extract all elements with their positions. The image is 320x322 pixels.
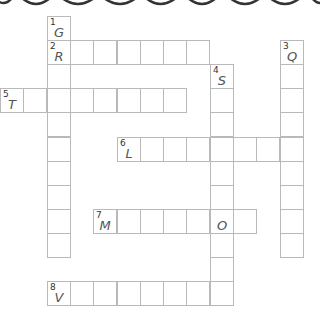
crossword-cell[interactable] bbox=[93, 281, 117, 306]
crossword-cell[interactable] bbox=[210, 185, 234, 210]
crossword-cell[interactable] bbox=[280, 233, 304, 258]
crossword-cell[interactable] bbox=[256, 137, 280, 162]
crossword-cell[interactable] bbox=[210, 137, 234, 162]
crossword-cell[interactable] bbox=[93, 40, 117, 65]
crossword-cell[interactable] bbox=[233, 137, 257, 162]
cell-letter: M bbox=[94, 218, 116, 233]
cell-letter: G bbox=[48, 25, 70, 40]
crossword-cell[interactable] bbox=[117, 40, 141, 65]
crossword-cell[interactable] bbox=[47, 137, 71, 162]
cell-letter: V bbox=[48, 290, 70, 305]
crossword-cell[interactable] bbox=[140, 209, 164, 234]
crossword-cell[interactable] bbox=[47, 209, 71, 234]
crossword-cell[interactable] bbox=[280, 209, 304, 234]
crossword-cell[interactable] bbox=[186, 40, 210, 65]
crossword-cell[interactable] bbox=[163, 88, 187, 113]
crossword-cell[interactable] bbox=[47, 185, 71, 210]
cell-letter: L bbox=[118, 146, 140, 161]
crossword-cell[interactable] bbox=[47, 64, 71, 89]
cell-letter: O bbox=[211, 218, 233, 233]
crossword-cell[interactable] bbox=[280, 112, 304, 137]
crossword-cell[interactable] bbox=[117, 209, 141, 234]
crossword-cell[interactable] bbox=[70, 40, 94, 65]
crossword-grid: 1G2R3Q4SO5T6L7M8V bbox=[0, 0, 320, 322]
crossword-cell[interactable] bbox=[210, 257, 234, 282]
cell-letter: T bbox=[1, 97, 23, 112]
crossword-cell[interactable] bbox=[117, 88, 141, 113]
crossword-cell[interactable] bbox=[47, 112, 71, 137]
crossword-cell[interactable] bbox=[210, 161, 234, 186]
crossword-cell[interactable]: 1G bbox=[47, 16, 71, 41]
crossword-cell[interactable]: 5T bbox=[0, 88, 24, 113]
crossword-cell[interactable]: 6L bbox=[117, 137, 141, 162]
crossword-cell[interactable] bbox=[210, 112, 234, 137]
crossword-cell[interactable] bbox=[93, 88, 117, 113]
crossword-cell[interactable] bbox=[186, 281, 210, 306]
crossword-cell[interactable] bbox=[210, 281, 234, 306]
crossword-cell[interactable]: 3Q bbox=[280, 40, 304, 65]
crossword-cell[interactable] bbox=[47, 161, 71, 186]
cell-letter: S bbox=[211, 73, 233, 88]
crossword-cell[interactable] bbox=[163, 281, 187, 306]
cell-letter: Q bbox=[281, 49, 303, 64]
crossword-cell[interactable] bbox=[280, 137, 304, 162]
crossword-cell[interactable] bbox=[280, 185, 304, 210]
crossword-cell[interactable] bbox=[233, 209, 257, 234]
crossword-cell[interactable] bbox=[47, 233, 71, 258]
crossword-cell[interactable]: 7M bbox=[93, 209, 117, 234]
crossword-cell[interactable] bbox=[210, 88, 234, 113]
crossword-cell[interactable] bbox=[140, 281, 164, 306]
crossword-cell[interactable] bbox=[140, 40, 164, 65]
crossword-cell[interactable] bbox=[70, 88, 94, 113]
crossword-cell[interactable] bbox=[140, 88, 164, 113]
crossword-cell[interactable] bbox=[280, 64, 304, 89]
crossword-cell[interactable] bbox=[186, 137, 210, 162]
crossword-cell[interactable]: 2R bbox=[47, 40, 71, 65]
crossword-cell[interactable]: O bbox=[210, 209, 234, 234]
crossword-cell[interactable] bbox=[186, 209, 210, 234]
crossword-cell[interactable]: 8V bbox=[47, 281, 71, 306]
cell-letter: R bbox=[48, 49, 70, 64]
crossword-cell[interactable] bbox=[47, 88, 71, 113]
crossword-cell[interactable] bbox=[280, 88, 304, 113]
crossword-cell[interactable] bbox=[210, 233, 234, 258]
crossword-cell[interactable] bbox=[23, 88, 47, 113]
crossword-cell[interactable]: 4S bbox=[210, 64, 234, 89]
crossword-cell[interactable] bbox=[163, 137, 187, 162]
crossword-cell[interactable] bbox=[280, 161, 304, 186]
crossword-cell[interactable] bbox=[117, 281, 141, 306]
crossword-cell[interactable] bbox=[163, 209, 187, 234]
crossword-cell[interactable] bbox=[163, 40, 187, 65]
crossword-cell[interactable] bbox=[140, 137, 164, 162]
crossword-cell[interactable] bbox=[70, 281, 94, 306]
